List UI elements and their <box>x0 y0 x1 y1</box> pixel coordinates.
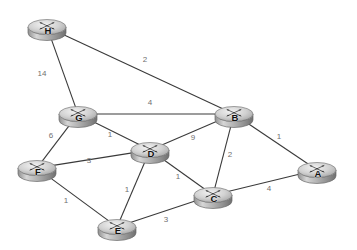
router-node-e[interactable]: E <box>98 220 136 241</box>
edge-weight-d-c: 1 <box>176 172 181 181</box>
router-node-a[interactable]: A <box>298 163 336 184</box>
router-node-g[interactable]: G <box>59 107 97 128</box>
edge-weight-f-d: 3 <box>87 156 92 165</box>
router-node-h[interactable]: H <box>28 20 66 41</box>
router-node-b[interactable]: B <box>215 107 253 128</box>
edge-weight-b-c: 2 <box>228 150 233 159</box>
router-label-g: G <box>75 112 82 123</box>
router-node-d[interactable]: D <box>131 143 169 164</box>
edge-weight-f-e: 1 <box>64 196 69 205</box>
graph-edge-f-d <box>53 153 134 166</box>
graph-edge-c-a <box>228 174 302 192</box>
edge-weight-d-b: 9 <box>191 133 196 142</box>
router-label-f: F <box>35 166 41 177</box>
graph-edge-f-e <box>45 174 109 221</box>
graph-edge-d-c <box>158 156 204 189</box>
router-label-d: D <box>148 148 155 159</box>
network-diagram: 142461912311134 HGBDFACE <box>0 0 357 250</box>
graph-edge-g-d <box>89 119 139 144</box>
edge-weight-d-e: 1 <box>125 185 130 194</box>
router-label-c: C <box>211 193 218 204</box>
edge-weight-g-b: 4 <box>148 98 153 107</box>
router-label-e: E <box>115 225 121 236</box>
graph-edge-h-b <box>58 32 222 108</box>
edge-weight-h-b: 2 <box>143 55 148 64</box>
edge-weight-b-a: 1 <box>277 132 282 141</box>
edge-weight-g-d: 1 <box>108 130 113 139</box>
edge-weight-e-c: 3 <box>164 215 169 224</box>
router-node-c[interactable]: C <box>194 188 232 209</box>
network-graph-canvas: 142461912311134 HGBDFACE <box>0 0 357 250</box>
edge-weights-layer: 142461912311134 <box>38 55 282 224</box>
router-label-a: A <box>315 168 322 179</box>
router-node-f[interactable]: F <box>18 161 56 182</box>
edge-weight-g-f: 6 <box>49 131 54 140</box>
graph-edge-h-g <box>49 34 75 107</box>
edge-weight-h-g: 14 <box>38 69 47 78</box>
router-label-h: H <box>45 25 52 36</box>
router-label-b: B <box>232 112 239 123</box>
graph-edge-b-a <box>243 120 308 164</box>
edge-weight-c-a: 4 <box>267 184 272 193</box>
